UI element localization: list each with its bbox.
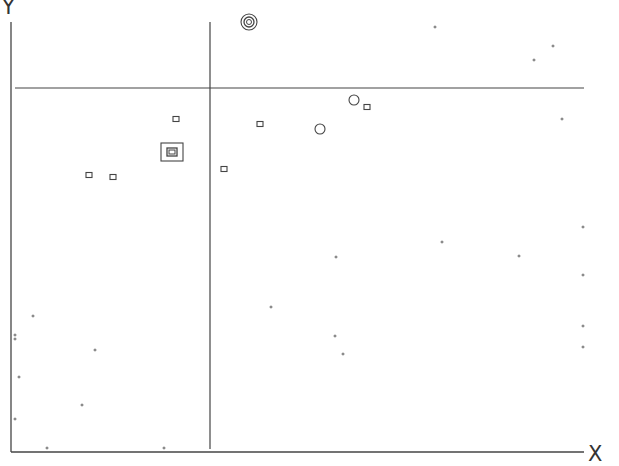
dot-marker — [581, 225, 585, 229]
dot-marker — [341, 352, 345, 356]
dot-marker — [13, 417, 17, 421]
dot-marker — [440, 240, 444, 244]
dot-marker — [13, 333, 17, 337]
dot-marker — [433, 25, 437, 29]
dot-marker — [581, 345, 585, 349]
dot-marker — [269, 305, 273, 309]
concentric-circle-marker — [241, 14, 257, 30]
scatter-plot — [0, 0, 619, 466]
dot-marker — [333, 334, 337, 338]
square-marker — [86, 173, 92, 178]
dot-marker — [45, 446, 49, 450]
square-marker — [364, 105, 370, 110]
nested-square-marker — [161, 143, 183, 161]
y-axis-label: Y — [2, 0, 15, 18]
dot-marker — [80, 403, 84, 407]
circle-marker — [349, 95, 359, 105]
square-marker — [173, 117, 179, 122]
dot-marker — [162, 446, 166, 450]
dot-marker — [560, 117, 564, 121]
data-markers — [13, 14, 585, 450]
square-marker — [257, 122, 263, 127]
axes — [11, 22, 584, 452]
dot-marker — [17, 375, 21, 379]
dot-marker — [581, 324, 585, 328]
dot-marker — [581, 273, 585, 277]
dot-marker — [13, 337, 17, 341]
quadrant-dividers — [15, 22, 584, 449]
circle-marker — [315, 124, 325, 134]
dot-marker — [93, 348, 97, 352]
x-axis-label: X — [588, 444, 602, 465]
square-marker — [110, 175, 116, 180]
dot-marker — [551, 44, 555, 48]
dot-marker — [517, 254, 521, 258]
square-marker — [221, 167, 227, 172]
dot-marker — [532, 58, 536, 62]
dot-marker — [31, 314, 35, 318]
dot-marker — [334, 255, 338, 259]
